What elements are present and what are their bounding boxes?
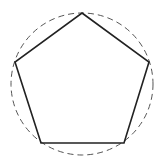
pentagon [15, 13, 149, 143]
diagram-canvas [0, 0, 160, 167]
circumscribed-circle [11, 13, 153, 155]
